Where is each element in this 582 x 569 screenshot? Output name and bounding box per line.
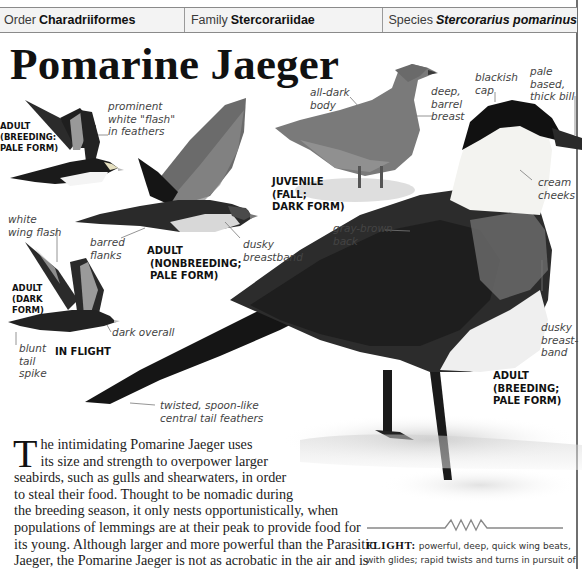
label-prominent-flash: prominent white "flash" in feathers — [108, 100, 175, 138]
label-barred-flanks: barred flanks — [90, 236, 125, 261]
label-gray-brown-back: gray-brown back — [333, 222, 393, 247]
label-white-wing-flash: white wing flash — [8, 213, 62, 238]
flight-label: FLIGHT: — [366, 539, 416, 551]
body-line: to steal their food. Thought to be nomad… — [14, 486, 354, 503]
body-line: Jaeger, the Pomarine Jaeger is not as ac… — [14, 552, 354, 569]
label-dusky-breastband-flight: dusky breastband — [243, 238, 303, 263]
flight-description: FLIGHT: powerful, deep, quick wing beats… — [366, 538, 576, 569]
label-blunt-tail-spike: blunt tail spike — [19, 342, 47, 380]
caption-juvenile: JUVENILE (FALL; DARK FORM) — [272, 176, 345, 214]
label-blackish-cap: blackish cap — [475, 71, 518, 96]
label-pale-based-bill: pale based, thick bill — [530, 65, 574, 103]
body-line: he intimidating Pomarine Jaeger uses — [14, 436, 354, 453]
drop-cap: T — [13, 439, 37, 469]
label-dusky-breastband-photo: dusky breast- band — [541, 321, 578, 359]
body-line: seabirds, such as gulls and shearwaters,… — [14, 469, 354, 486]
body-line: populations of lemmings are at their pea… — [14, 519, 354, 536]
caption-adult-breeding-flight: ADULT (BREEDING: PALE FORM) — [0, 121, 58, 154]
flight-pattern-icon — [367, 515, 563, 535]
body-line: its young. Although larger and more powe… — [14, 536, 354, 553]
body-line: the breeding season, it only nests oppor… — [14, 502, 354, 519]
label-tail-feathers: twisted, spoon-like central tail feather… — [160, 399, 263, 424]
label-deep-barrel-breast: deep, barrel breast — [431, 85, 464, 123]
species-description: T he intimidating Pomarine Jaeger uses i… — [14, 436, 354, 569]
label-cream-cheeks: cream cheeks — [538, 176, 575, 201]
body-line: its size and strength to overpower large… — [14, 453, 354, 470]
caption-in-flight: IN FLIGHT — [55, 346, 111, 359]
label-all-dark-body: all-dark body — [310, 86, 350, 111]
caption-adult-nonbreeding: ADULT (NONBREEDING; PALE FORM) — [147, 245, 241, 283]
label-dark-overall: dark overall — [112, 326, 175, 339]
caption-adult-dark-form: ADULT (DARK FORM) — [12, 283, 44, 316]
caption-adult-breeding-photo: ADULT (BREEDING; PALE FORM) — [493, 370, 561, 408]
